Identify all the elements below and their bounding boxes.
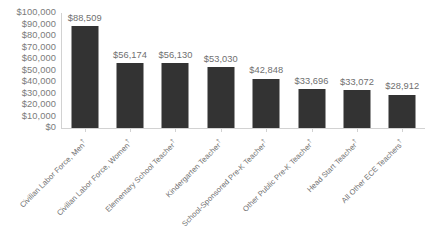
- footnote-dagger-marker: †: [305, 137, 312, 144]
- footnote-dagger-marker: †: [78, 137, 85, 144]
- x-axis-tick-mark: [130, 129, 131, 132]
- x-axis-tick-mark: [312, 129, 313, 132]
- footnote-dagger-marker: †: [259, 137, 266, 144]
- bar-chart: $100,000$90,000$80,000$70,000$60,000$50,…: [0, 0, 435, 243]
- x-axis-tick-mark: [175, 129, 176, 132]
- footnote-dagger-marker: †: [350, 137, 357, 144]
- x-axis: Civilian Labor Force, Men†Civilian Labor…: [0, 0, 435, 243]
- footnote-dagger-marker: †: [214, 137, 221, 144]
- x-axis-category-label: Kindergarten Teacher†: [75, 137, 225, 243]
- footnote-dagger-marker: †: [169, 137, 176, 144]
- x-axis-tick-mark: [85, 129, 86, 132]
- x-axis-tick-mark: [402, 129, 403, 132]
- footnote-dagger-marker: †: [123, 137, 130, 144]
- x-axis-tick-mark: [357, 129, 358, 132]
- footnote-dagger-marker: †: [396, 137, 403, 144]
- x-axis-tick-mark: [266, 129, 267, 132]
- x-axis-tick-mark: [221, 129, 222, 132]
